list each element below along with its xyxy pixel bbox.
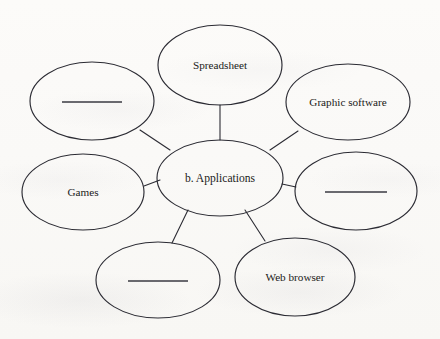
node-blank-right[interactable] [295,152,417,230]
connector-center-blank-top-left [140,130,170,150]
node-graphic-software: Graphic software [286,64,410,140]
node-blank-top-left-outline [30,62,154,140]
node-spreadsheet: Spreadsheet [158,25,282,105]
node-layer: SpreadsheetGraphic softwareGamesWeb brow… [22,25,417,318]
node-web-browser-label: Web browser [265,271,324,283]
connector-center-web-browser [245,210,265,241]
node-graphic-software-label: Graphic software [309,96,386,108]
connector-center-blank-right [282,184,296,187]
node-blank-bottom-left-outline [96,242,220,318]
node-blank-bottom-left[interactable] [96,242,220,318]
node-games-label: Games [67,186,98,198]
connector-center-blank-bottom-left [172,210,188,243]
node-blank-right-outline [295,152,417,230]
center-node: b. Applications [157,140,283,216]
node-blank-top-left[interactable] [30,62,154,140]
node-games: Games [22,154,144,230]
connector-center-graphic-software [270,131,298,150]
center-node-label: b. Applications [185,172,256,185]
node-spreadsheet-label: Spreadsheet [193,59,248,71]
concept-map-diagram: SpreadsheetGraphic softwareGamesWeb brow… [0,0,440,339]
worksheet-page: SpreadsheetGraphic softwareGamesWeb brow… [0,0,440,339]
node-web-browser: Web browser [235,238,355,316]
